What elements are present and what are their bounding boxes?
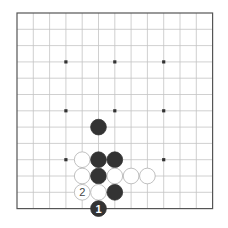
white-stone-icon	[91, 184, 107, 200]
black-stone[interactable]	[91, 168, 107, 184]
white-stone-move-2[interactable]: 2	[74, 184, 90, 200]
black-stone[interactable]	[91, 152, 107, 168]
star-point-icon	[64, 109, 67, 112]
star-point-icon	[113, 109, 116, 112]
star-point-icon	[162, 60, 165, 63]
star-point-icon	[64, 158, 67, 161]
white-stone[interactable]	[91, 184, 107, 200]
white-stone-icon	[140, 168, 156, 184]
black-stone[interactable]	[107, 184, 123, 200]
white-stone[interactable]	[123, 168, 139, 184]
white-stone[interactable]	[74, 168, 90, 184]
star-point-icon	[113, 60, 116, 63]
move-number-label: 1	[95, 203, 101, 215]
white-stone[interactable]	[140, 168, 156, 184]
black-stone-move-1[interactable]: 1	[91, 201, 107, 217]
black-stone[interactable]	[107, 152, 123, 168]
white-stone-icon	[107, 168, 123, 184]
move-number-label: 2	[79, 186, 85, 198]
white-stone[interactable]	[74, 152, 90, 168]
white-stone-icon	[74, 168, 90, 184]
black-stone-icon	[91, 152, 107, 168]
white-stone[interactable]	[107, 168, 123, 184]
star-point-icon	[162, 158, 165, 161]
black-stone[interactable]	[91, 119, 107, 135]
black-stone-icon	[107, 152, 123, 168]
black-stone-icon	[91, 119, 107, 135]
star-point-icon	[64, 60, 67, 63]
white-stone-icon	[74, 152, 90, 168]
star-point-icon	[162, 109, 165, 112]
go-board[interactable]: 21	[0, 0, 228, 228]
white-stone-icon	[123, 168, 139, 184]
black-stone-icon	[107, 184, 123, 200]
black-stone-icon	[91, 168, 107, 184]
